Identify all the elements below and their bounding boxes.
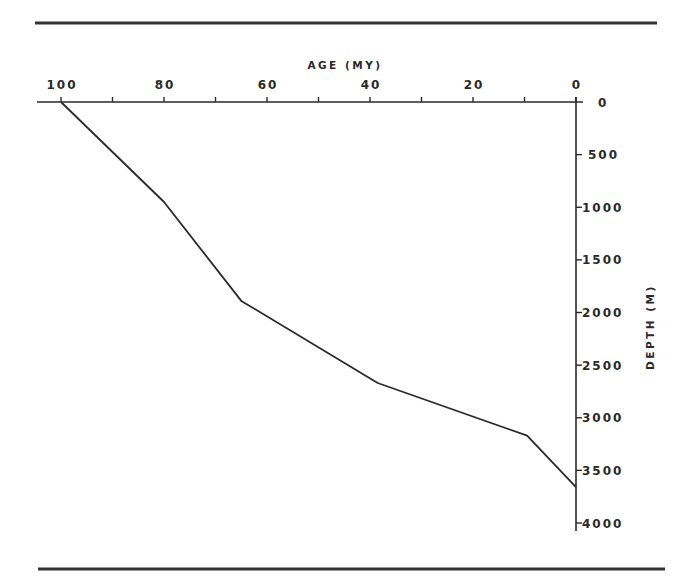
- y-tick-label: 4000: [582, 517, 623, 531]
- y-tick-label: 2000: [582, 306, 623, 320]
- series-layer: [61, 102, 576, 487]
- y-axis: 05001000150020002500300035004000: [576, 96, 623, 532]
- x-tick-label: 100: [46, 78, 77, 92]
- depth-age-chart: 100806040200 050010001500200025003000350…: [0, 0, 691, 588]
- x-tick-label: 40: [361, 78, 382, 92]
- burial-curve-line: [61, 102, 576, 487]
- chart-canvas: 100806040200 050010001500200025003000350…: [0, 0, 691, 588]
- x-axis-title: AGE (MY): [307, 59, 382, 71]
- y-tick-label: 1500: [582, 253, 623, 267]
- x-axis: 100806040200: [37, 78, 583, 102]
- x-tick-label: 60: [258, 78, 279, 92]
- y-tick-label: 500: [588, 148, 619, 162]
- y-tick-label: 1000: [582, 201, 623, 215]
- y-tick-label: 3500: [582, 464, 623, 478]
- y-tick-label: 2500: [582, 359, 623, 373]
- y-tick-label: 3000: [582, 411, 623, 425]
- y-tick-label: 0: [598, 96, 608, 110]
- x-tick-label: 20: [464, 78, 485, 92]
- y-axis-title: DEPTH (M): [644, 284, 656, 370]
- x-tick-label: 80: [155, 78, 176, 92]
- x-tick-label: 0: [572, 78, 582, 92]
